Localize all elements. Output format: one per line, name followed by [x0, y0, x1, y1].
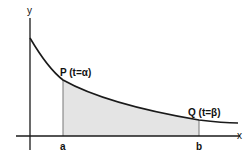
point-p-name: P — [60, 67, 67, 78]
point-q-param: (t=β) — [199, 107, 221, 118]
tick-label-a: a — [60, 142, 66, 152]
point-p-label: P (t=α) — [60, 68, 91, 78]
point-q-label: Q (t=β) — [188, 108, 221, 118]
y-axis-label: y — [27, 6, 32, 16]
point-p-param: (t=α) — [69, 67, 91, 78]
point-q-name: Q — [188, 107, 196, 118]
tick-label-b: b — [196, 142, 202, 152]
parametric-area-diagram — [0, 0, 251, 159]
x-axis-label: x — [237, 131, 242, 141]
shaded-area — [63, 80, 199, 136]
